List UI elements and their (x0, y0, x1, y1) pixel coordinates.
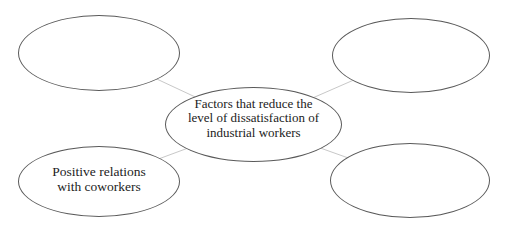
node-center-label: Factors that reduce the level of dissati… (188, 97, 319, 141)
node-top-right-ellipse (332, 18, 490, 93)
node-center-label-line-1: Factors that reduce the (188, 97, 319, 112)
node-bottom-left-label: Positive relations with coworkers (52, 164, 145, 194)
node-center-label-line-2: level of dissatisfaction of (188, 111, 319, 126)
node-bottom-left-label-line-1: Positive relations (52, 164, 145, 179)
node-center-ellipse: Factors that reduce the level of dissati… (165, 87, 342, 162)
node-bottom-left-label-line-2: with coworkers (52, 179, 145, 194)
node-bottom-right-ellipse (330, 143, 490, 218)
node-top-left-ellipse (18, 15, 180, 91)
node-bottom-left-ellipse: Positive relations with coworkers (18, 146, 180, 217)
node-center-label-line-3: industrial workers (188, 126, 319, 141)
diagram-canvas: Factors that reduce the level of dissati… (0, 0, 507, 231)
